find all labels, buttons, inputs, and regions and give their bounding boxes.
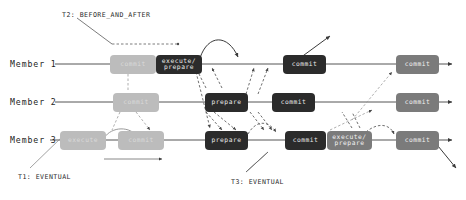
annotation-leader-t3 [104, 152, 268, 172]
node-m2-commit-2[interactable]: commit [272, 93, 315, 112]
node-m2-commit-3[interactable]: commit [396, 93, 439, 112]
node-label: prepare [211, 137, 241, 143]
node-m3-commit-2[interactable]: commit [285, 131, 326, 150]
node-m3-prepare[interactable]: prepare [205, 131, 248, 150]
node-m2-prepare[interactable]: prepare [205, 93, 248, 112]
lane-label-member-3: Member 3 [10, 135, 57, 145]
node-label: commit [293, 137, 319, 143]
node-m3-execute-prepare[interactable]: execute/prepare [327, 131, 372, 150]
annotation-leader-t2 [77, 18, 178, 44]
annotation-t2-before-and-after: T2: BEFORE_AND_AFTER [62, 11, 150, 19]
edge-m1execprep-loopback [200, 40, 238, 58]
node-label: commit [123, 99, 149, 105]
edge-m3prepare-arc [248, 123, 276, 134]
node-label: execute [68, 137, 98, 143]
edge-prepare-crossfan-m3 [206, 112, 272, 130]
node-m1-execute-prepare[interactable]: execute/prepare [156, 55, 202, 74]
node-m1-commit-1[interactable]: commit [110, 55, 156, 74]
node-label: execute/prepare [332, 134, 366, 147]
node-label: commit [128, 137, 154, 143]
node-label: commit [405, 137, 431, 143]
lane-label-member-1: Member 1 [10, 59, 57, 69]
node-label: execute/prepare [162, 58, 196, 71]
edge-prepare-fanin-m1 [196, 68, 268, 94]
annotation-t1-eventual: T1: EVENTUAL [18, 173, 71, 181]
node-label: commit [292, 61, 318, 67]
node-label: commit [405, 61, 431, 67]
annotation-leader-t3-elbow [246, 152, 268, 172]
node-m3-commit-1[interactable]: commit [118, 131, 164, 150]
lane-label-member-2: Member 2 [10, 97, 57, 107]
node-m1-commit-3[interactable]: commit [396, 55, 439, 74]
node-m3-execute[interactable]: execute [60, 131, 106, 150]
node-label: prepare [211, 99, 241, 105]
node-label: commit [281, 99, 307, 105]
edge-m3-to-m1-fanout [112, 112, 120, 130]
node-label: commit [120, 61, 146, 67]
diagram-canvas: Member 1 Member 2 Member 3 commit execut… [0, 0, 466, 200]
node-m1-commit-2[interactable]: commit [283, 55, 326, 74]
node-m2-commit-1[interactable]: commit [113, 93, 159, 112]
node-label: commit [405, 99, 431, 105]
edge-m3commit3-out-diagonal [438, 146, 456, 168]
annotation-t3-eventual: T3: EVENTUAL [231, 178, 284, 186]
node-m3-commit-3[interactable]: commit [396, 131, 439, 150]
edge-m3-to-m2-commit-dashed [330, 72, 392, 130]
